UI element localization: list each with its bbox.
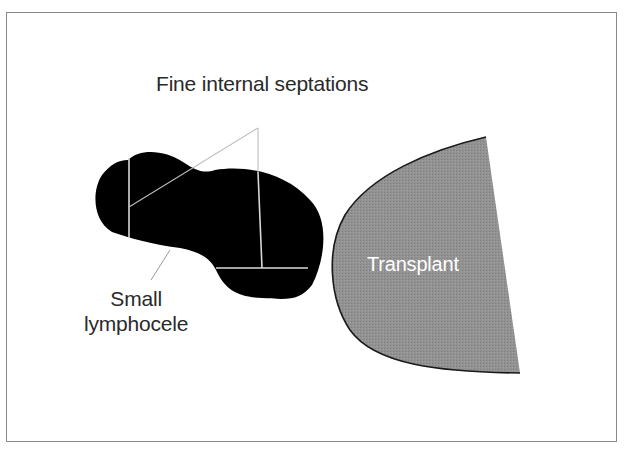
- lymphocele-label: Small lymphocele: [84, 286, 188, 336]
- septations-label: Fine internal septations: [156, 72, 368, 96]
- lymphocele-label-line1: Small: [84, 286, 188, 311]
- lymphocele-label-line2: lymphocele: [84, 311, 188, 336]
- lymphocele-leader: [151, 250, 170, 280]
- transplant-label: Transplant: [367, 253, 459, 276]
- diagram-canvas: [0, 0, 630, 454]
